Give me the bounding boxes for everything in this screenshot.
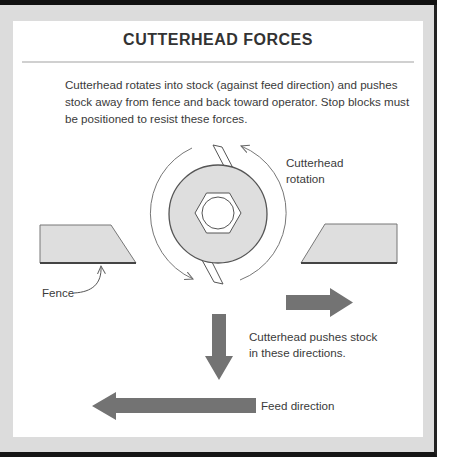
left-stock-icon	[40, 225, 136, 263]
push-down-arrow-icon	[205, 314, 233, 380]
push-right-arrow-icon	[286, 288, 353, 317]
cutterhead-icon	[169, 165, 267, 263]
feed-direction-label: Feed direction	[261, 398, 334, 414]
feed-arrow-icon	[92, 392, 256, 420]
rotation-label-line2: rotation	[286, 171, 325, 187]
right-stock-icon	[301, 224, 397, 263]
push-label-line2: in these directions.	[249, 345, 346, 361]
rotation-label-line1: Cutterhead	[286, 155, 343, 171]
cutterhead-diagram	[0, 0, 456, 467]
fence-label: Fence	[42, 285, 74, 301]
fence-leader-icon	[74, 266, 101, 293]
push-label-line1: Cutterhead pushes stock	[249, 329, 377, 345]
